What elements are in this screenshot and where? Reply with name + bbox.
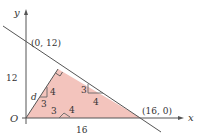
base-tri-leg-4: 4: [69, 105, 75, 115]
horizontal-length-label: 16: [76, 125, 88, 135]
x-intercept-label: (16, 0): [142, 106, 172, 116]
origin-label: O: [10, 113, 18, 124]
y-axis-label: y: [13, 7, 20, 18]
distance-d-label: d: [31, 92, 37, 102]
base-tri-leg-3: 3: [51, 106, 57, 116]
perp-tri-leg-4: 4: [50, 87, 56, 97]
y-axis-arrow-icon: [24, 9, 28, 15]
vertical-length-label: 12: [6, 73, 17, 83]
x-axis-label: x: [188, 112, 194, 123]
x-axis-arrow-icon: [178, 116, 184, 120]
perp-tri-leg-3: 3: [41, 99, 47, 109]
diagram-canvas: y x O (0, 12) (16, 0) 12 16 d 4 3 3 4 3 …: [0, 0, 199, 137]
y-intercept-label: (0, 12): [31, 38, 61, 48]
hyp-tri-leg-4: 4: [93, 97, 99, 107]
diagram-svg: y x O (0, 12) (16, 0) 12 16 d 4 3 3 4 3 …: [0, 0, 199, 137]
hyp-tri-leg-3: 3: [81, 85, 87, 95]
